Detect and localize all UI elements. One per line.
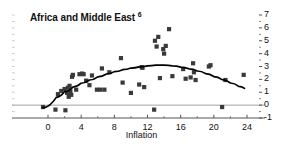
- data-point-marker: [156, 35, 160, 39]
- x-axis-tick-label: 16: [167, 122, 195, 132]
- data-point-marker: [170, 74, 174, 78]
- data-point-marker: [53, 108, 57, 112]
- x-axis-tick-label: 4: [67, 122, 95, 132]
- data-point-marker: [90, 73, 94, 77]
- scatter-series: [41, 27, 246, 112]
- data-point-marker: [137, 82, 141, 86]
- data-point-marker: [191, 61, 195, 65]
- x-axis-tick-label: 24: [233, 122, 261, 132]
- x-axis-tick-label: 20: [200, 122, 228, 132]
- data-point-marker: [155, 44, 159, 48]
- data-point-marker: [164, 44, 168, 48]
- y-axis-tick-label: 3: [264, 61, 269, 71]
- data-point-marker: [121, 80, 125, 84]
- data-point-marker: [69, 93, 73, 97]
- data-point-marker: [71, 73, 75, 77]
- data-point-marker: [142, 85, 146, 89]
- data-point-marker: [152, 108, 156, 112]
- data-point-marker: [193, 78, 197, 82]
- data-point-marker: [74, 88, 78, 92]
- data-point-marker: [67, 84, 71, 88]
- data-point-marker: [102, 88, 106, 92]
- y-axis-tick-label: 5: [264, 35, 269, 45]
- data-point-marker: [167, 27, 171, 31]
- x-axis-tick-label: 8: [100, 122, 128, 132]
- chart-figure: Africa and Middle East 6 Inflation 04812…: [0, 0, 283, 150]
- y-axis-tick-label: 6: [264, 22, 269, 32]
- data-point-marker: [100, 66, 104, 70]
- y-axis-tick-label: 0: [264, 99, 269, 109]
- data-point-marker: [119, 56, 123, 60]
- x-axis-tick-label: 12: [134, 122, 162, 132]
- data-point-marker: [220, 105, 224, 109]
- data-point-marker: [153, 39, 157, 43]
- y-axis-tick-label: 2: [264, 73, 269, 83]
- x-axis-tick-label: 0: [34, 122, 62, 132]
- y-axis-tick-label: -1: [264, 112, 272, 122]
- data-point-marker: [129, 91, 133, 95]
- data-point-marker: [162, 52, 166, 56]
- y-axis-tick-label: 7: [264, 9, 269, 19]
- data-point-marker: [189, 75, 193, 79]
- data-point-marker: [63, 108, 67, 112]
- data-point-marker: [158, 76, 162, 80]
- y-axis-tick-label: 4: [264, 48, 269, 58]
- y-axis-tick-label: 1: [264, 86, 269, 96]
- data-point-marker: [208, 63, 212, 67]
- data-point-marker: [87, 83, 91, 87]
- data-point-marker: [242, 73, 246, 77]
- data-point-marker: [98, 88, 102, 92]
- data-point-marker: [82, 72, 86, 76]
- data-point-marker: [184, 77, 188, 81]
